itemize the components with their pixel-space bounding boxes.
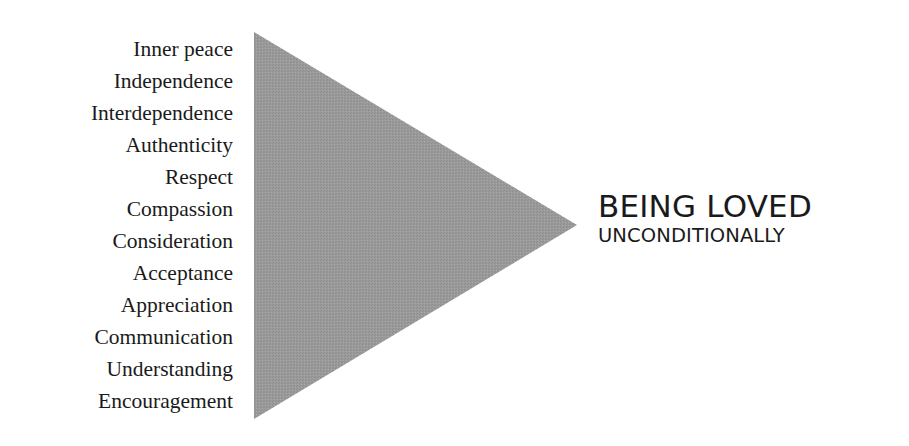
value-item: Understanding — [91, 353, 233, 385]
value-item: Encouragement — [91, 385, 233, 417]
outcome-title: BEING LOVED — [598, 188, 812, 224]
value-item: Authenticity — [91, 129, 233, 161]
value-item: Communication — [91, 321, 233, 353]
value-item: Compassion — [91, 193, 233, 225]
arrow-triangle-icon — [254, 32, 578, 420]
outcome-label: BEING LOVED UNCONDITIONALLY — [598, 188, 812, 248]
value-item: Acceptance — [91, 257, 233, 289]
value-item: Inner peace — [91, 33, 233, 65]
value-item: Respect — [91, 161, 233, 193]
value-item: Consideration — [91, 225, 233, 257]
outcome-subtitle: UNCONDITIONALLY — [598, 224, 812, 248]
value-item: Independence — [91, 65, 233, 97]
value-item: Appreciation — [91, 289, 233, 321]
value-item: Interdependence — [91, 97, 233, 129]
values-list: Inner peace Independence Interdependence… — [91, 33, 233, 417]
